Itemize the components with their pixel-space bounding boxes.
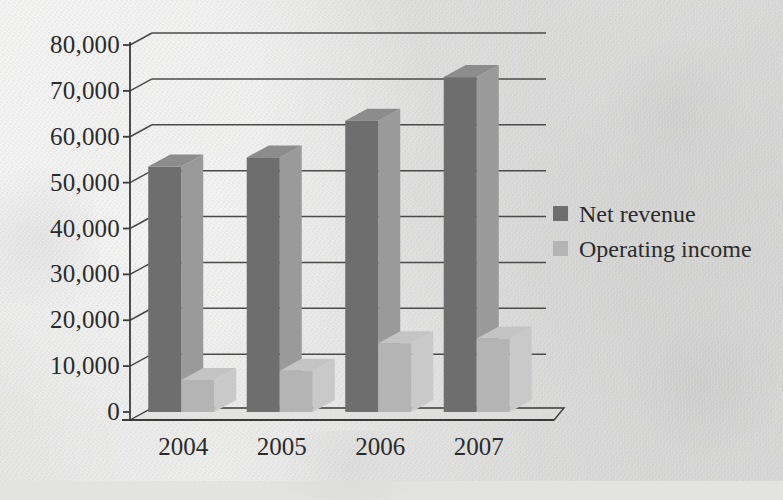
bar-2007-operating-income — [477, 327, 532, 412]
bar-front-face — [444, 77, 477, 412]
bar-front-face — [477, 339, 510, 412]
legend-label: Net revenue — [579, 202, 696, 226]
x-axis-label-2007: 2007 — [430, 434, 529, 459]
grid-connector — [130, 79, 152, 91]
grid-connector — [130, 125, 152, 137]
bar-front-face — [345, 121, 378, 412]
legend-item-operating-income[interactable]: Operating income — [553, 231, 778, 266]
x-axis-label-2004: 2004 — [134, 434, 233, 459]
legend-label: Operating income — [579, 237, 752, 261]
bar-front-face — [378, 343, 411, 412]
chart-legend: Net revenueOperating income — [553, 196, 778, 266]
bar-front-face — [280, 371, 313, 412]
x-axis-label-2006: 2006 — [331, 434, 430, 459]
bar-front-face — [247, 157, 280, 412]
bar-side-face — [411, 331, 433, 412]
legend-item-net-revenue[interactable]: Net revenue — [553, 196, 778, 231]
y-axis-tick-label: 70,000 — [50, 78, 120, 103]
y-axis-tick-label: 0 — [107, 399, 120, 424]
bar-front-face — [181, 380, 214, 412]
bar-side-face — [510, 327, 532, 412]
bar-2006-operating-income — [378, 331, 433, 412]
y-axis-tick-label: 80,000 — [50, 32, 120, 57]
y-axis-tick-label: 50,000 — [50, 170, 120, 195]
legend-swatch-icon — [553, 206, 568, 221]
y-axis-tick-label: 10,000 — [50, 353, 120, 378]
y-axis-tick-label: 30,000 — [50, 261, 120, 286]
y-axis-tick-label: 40,000 — [50, 216, 120, 241]
bar-2005-operating-income — [280, 359, 335, 412]
y-axis-tick-labels: 80,00070,00060,00050,00040,00030,00020,0… — [8, 0, 120, 481]
legend-swatch-icon — [553, 241, 568, 256]
x-axis-label-2005: 2005 — [233, 434, 332, 459]
bar-front-face — [148, 167, 181, 412]
y-axis-tick-label: 60,000 — [50, 124, 120, 149]
y-axis-tick-label: 20,000 — [50, 307, 120, 332]
grid-connector — [130, 33, 152, 45]
